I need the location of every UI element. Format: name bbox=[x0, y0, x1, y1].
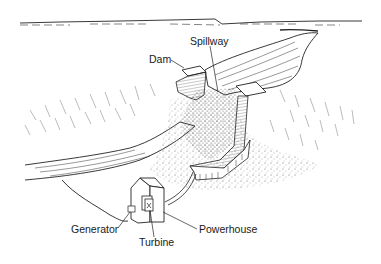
powerhouse-label: Powerhouse bbox=[199, 224, 257, 235]
hydro-dam-diagram: Dam Spillway Generator Turbine Powerhous… bbox=[0, 0, 381, 264]
spillway-label: Spillway bbox=[190, 36, 229, 47]
turbine-label: Turbine bbox=[139, 237, 174, 248]
powerhouse-building bbox=[128, 178, 164, 223]
horizon-line bbox=[20, 19, 362, 25]
dam-label: Dam bbox=[149, 54, 171, 65]
dam-structure bbox=[176, 66, 206, 100]
generator-label: Generator bbox=[71, 224, 118, 235]
tailrace bbox=[62, 180, 128, 221]
